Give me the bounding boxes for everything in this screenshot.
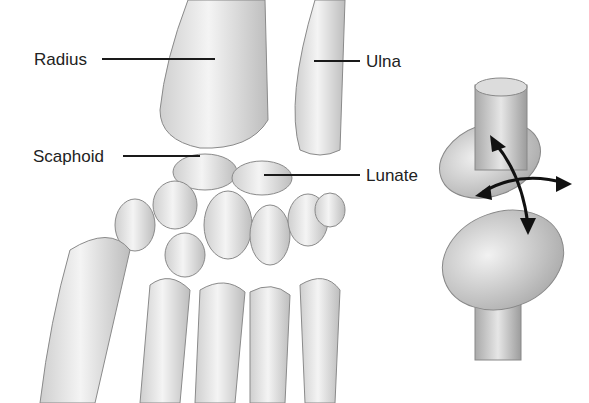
label-radius: Radius <box>34 51 87 68</box>
wrist-diagram: Radius Ulna Scaphoid Lunate <box>0 0 589 403</box>
label-lunate: Lunate <box>366 167 418 184</box>
lunate-bone <box>232 161 292 195</box>
label-scaphoid: Scaphoid <box>33 148 104 165</box>
label-ulna: Ulna <box>366 53 401 70</box>
ulna-bone <box>295 0 345 155</box>
condyloid-joint-model <box>428 78 577 360</box>
radius-bone <box>160 0 268 148</box>
wrist-bones-illustration <box>0 0 589 403</box>
